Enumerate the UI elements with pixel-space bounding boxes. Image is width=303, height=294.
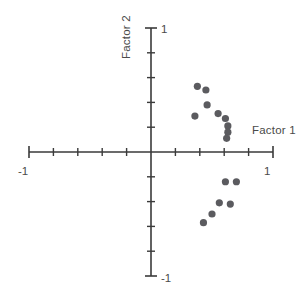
data-point bbox=[191, 112, 198, 119]
axes-group bbox=[29, 28, 273, 276]
data-point bbox=[223, 135, 230, 142]
data-point bbox=[224, 122, 231, 129]
data-point bbox=[208, 210, 215, 217]
data-point bbox=[215, 110, 222, 117]
x-axis-min-tick-label: -1 bbox=[18, 165, 28, 177]
data-point bbox=[227, 200, 234, 207]
x-axis-title: Factor 1 bbox=[252, 124, 296, 136]
data-point bbox=[224, 129, 231, 136]
data-point bbox=[204, 101, 211, 108]
data-point bbox=[233, 178, 240, 185]
x-axis-max-tick-label: 1 bbox=[264, 165, 270, 177]
data-point bbox=[202, 86, 209, 93]
data-point bbox=[222, 115, 229, 122]
data-point bbox=[194, 83, 201, 90]
scatter-plot-figure: Factor 1 Factor 2 -1 1 1 -1 bbox=[0, 0, 303, 294]
data-point bbox=[222, 178, 229, 185]
y-axis-min-tick-label: -1 bbox=[161, 272, 171, 284]
y-axis-max-tick-label: 1 bbox=[161, 23, 167, 35]
data-point bbox=[200, 219, 207, 226]
data-point bbox=[216, 199, 223, 206]
plot-canvas: Factor 1 Factor 2 -1 1 1 -1 bbox=[0, 0, 303, 294]
data-points-group bbox=[191, 83, 240, 227]
y-axis-title: Factor 2 bbox=[120, 15, 132, 59]
